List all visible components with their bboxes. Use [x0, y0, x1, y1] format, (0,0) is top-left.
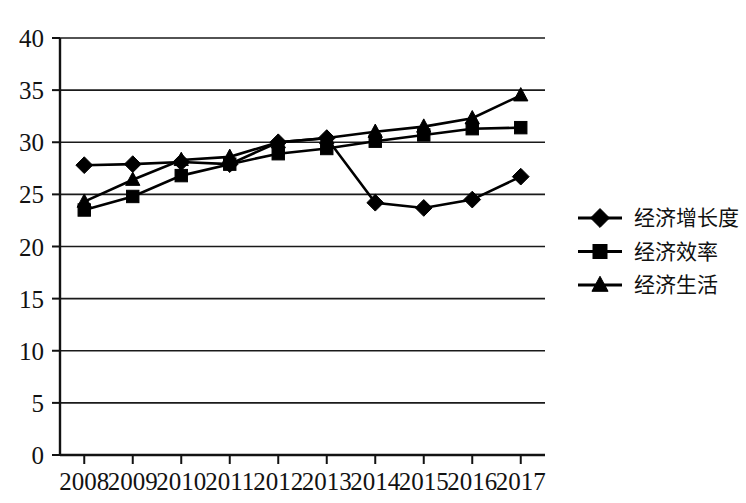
- y-tick-label-20: 20: [19, 234, 44, 261]
- square-marker: [466, 122, 478, 134]
- legend-item-2[interactable]: 经济效率: [578, 240, 718, 264]
- square-marker: [127, 190, 139, 202]
- y-tick-label-5: 5: [32, 390, 45, 417]
- square-marker: [272, 148, 284, 160]
- square-marker: [515, 121, 527, 133]
- y-tick-label-10: 10: [19, 338, 44, 365]
- x-tick-label-2012: 2012: [253, 468, 303, 495]
- line-chart: 0510152025303540 20082009201020112012201…: [0, 0, 746, 503]
- legend-label-2: 经济效率: [634, 240, 718, 264]
- x-tick-label-2011: 2011: [205, 468, 254, 495]
- x-tick-label-2014: 2014: [350, 468, 401, 495]
- y-tick-label-0: 0: [32, 442, 45, 469]
- legend-label-1: 经济增长度: [634, 206, 739, 230]
- y-axis-tick-labels: 0510152025303540: [19, 25, 44, 469]
- square-marker: [593, 245, 607, 259]
- series-3: [77, 88, 528, 208]
- diamond-marker: [124, 156, 141, 173]
- legend-item-1[interactable]: 经济增长度: [578, 206, 739, 230]
- x-tick-label-2015: 2015: [399, 468, 449, 495]
- x-tick-label-2009: 2009: [108, 468, 158, 495]
- x-axis-tick-labels: 2008200920102011201220132014201520162017: [59, 468, 546, 495]
- x-tick-marks-group: [84, 455, 521, 464]
- x-tick-label-2017: 2017: [496, 468, 546, 495]
- diamond-marker: [512, 168, 529, 185]
- series-line-3: [84, 95, 521, 201]
- y-tick-label-35: 35: [19, 77, 44, 104]
- x-tick-label-2016: 2016: [447, 468, 497, 495]
- x-tick-label-2013: 2013: [302, 468, 352, 495]
- x-tick-label-2008: 2008: [59, 468, 109, 495]
- chart-canvas: 0510152025303540 20082009201020112012201…: [0, 0, 746, 503]
- y-tick-label-25: 25: [19, 181, 44, 208]
- data-series-layer: [76, 88, 529, 217]
- legend-label-3: 经济生活: [634, 273, 718, 297]
- square-marker: [321, 142, 333, 154]
- chart-legend: 经济增长度经济效率经济生活: [578, 206, 739, 297]
- diamond-marker: [591, 209, 610, 228]
- diamond-marker: [76, 157, 93, 174]
- y-tick-label-30: 30: [19, 129, 44, 156]
- y-tick-label-40: 40: [19, 25, 44, 52]
- y-tick-label-15: 15: [19, 286, 44, 313]
- square-marker: [175, 169, 187, 181]
- x-tick-label-2010: 2010: [156, 468, 206, 495]
- legend-item-3[interactable]: 经济生活: [578, 273, 718, 297]
- diamond-marker: [415, 200, 432, 217]
- gridlines-group: [60, 38, 545, 403]
